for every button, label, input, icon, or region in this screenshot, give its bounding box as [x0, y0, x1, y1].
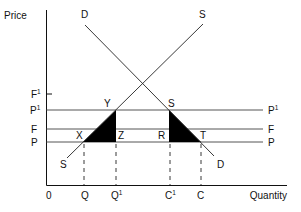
- x-axis-label: Quantity: [250, 190, 287, 201]
- right-label-p: P: [268, 137, 275, 148]
- supply-demand-diagram: Price Quantity 0 D D S S F1 P1 F P P1 F …: [0, 0, 301, 212]
- label-q1: Q1: [111, 189, 123, 201]
- right-label-p1: P1: [268, 104, 279, 116]
- point-r-label: R: [158, 130, 165, 141]
- label-p: P: [31, 137, 38, 148]
- demand-label-top: D: [81, 9, 88, 20]
- point-t-label: T: [200, 130, 206, 141]
- point-x-label: X: [76, 130, 83, 141]
- label-p1: P1: [30, 104, 41, 116]
- label-c1: C1: [165, 189, 176, 201]
- supply-label-top: S: [199, 9, 206, 20]
- label-f1: F1: [31, 88, 41, 100]
- label-c: C: [197, 190, 204, 201]
- point-y-label: Y: [104, 98, 111, 109]
- label-q: Q: [81, 190, 89, 201]
- supply-label-bottom: S: [60, 159, 67, 170]
- origin-label: 0: [46, 190, 52, 201]
- right-label-f: F: [268, 124, 274, 135]
- label-f: F: [31, 124, 37, 135]
- demand-label-bottom: D: [217, 159, 224, 170]
- point-s-label: S: [168, 98, 175, 109]
- y-axis-label: Price: [4, 10, 27, 21]
- point-z-label: Z: [118, 130, 124, 141]
